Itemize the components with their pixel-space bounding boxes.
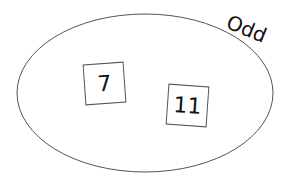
element-card: 7 [83, 62, 127, 106]
odd-set-ellipse [17, 14, 273, 172]
element-value: 11 [173, 92, 203, 119]
element-value: 7 [97, 71, 113, 97]
element-card: 11 [166, 84, 210, 128]
